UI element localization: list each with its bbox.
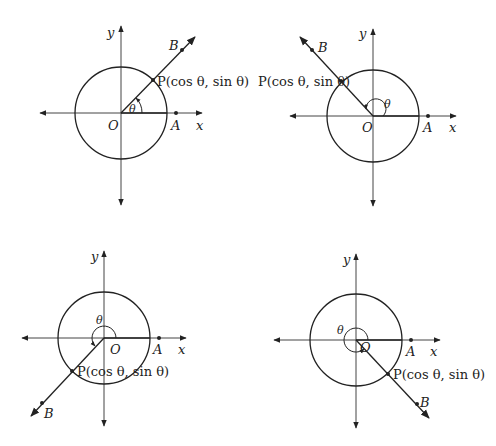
- origin-label: O: [110, 342, 121, 357]
- y-label: y: [106, 25, 115, 40]
- diagram-quadrant-2: y x O A B P(cos θ, sin θ) θ: [258, 26, 457, 206]
- point-a: [174, 111, 178, 115]
- point-a-label: A: [152, 342, 162, 357]
- angle-label: θ: [129, 103, 136, 116]
- point-p-label: P(cos θ, sin θ): [77, 364, 169, 379]
- origin-label: O: [362, 120, 373, 135]
- point-a-label: A: [422, 120, 432, 135]
- x-label: x: [178, 342, 186, 357]
- x-label: x: [430, 344, 438, 359]
- point-b: [310, 48, 314, 52]
- angle-label: θ: [384, 98, 391, 111]
- diagram-quadrant-3: y x O A B P(cos θ, sin θ) θ: [22, 249, 186, 426]
- x-label: x: [196, 118, 204, 133]
- point-p: [70, 369, 74, 373]
- angle-label: θ: [337, 324, 344, 337]
- y-label: y: [342, 252, 351, 267]
- unit-circle-diagrams: y x O A B P(cos θ, sin θ) θ y x O A B P(…: [0, 0, 496, 446]
- point-p: [386, 372, 390, 376]
- point-p-label: P(cos θ, sin θ): [393, 367, 485, 382]
- point-b-label: B: [317, 40, 328, 55]
- y-label: y: [90, 249, 99, 264]
- point-b: [40, 401, 44, 405]
- x-label: x: [449, 120, 457, 135]
- point-a-label: A: [170, 118, 180, 133]
- point-p-label: P(cos θ, sin θ): [258, 74, 350, 89]
- angle-arc: [136, 98, 142, 113]
- point-b-label: B: [168, 38, 179, 53]
- angle-label: θ: [96, 314, 103, 327]
- point-a: [426, 114, 430, 118]
- point-a-label: A: [405, 344, 415, 359]
- point-p-label: P(cos θ, sin θ): [157, 74, 249, 89]
- origin-label: O: [108, 118, 119, 133]
- point-a: [157, 336, 161, 340]
- point-b: [180, 48, 184, 52]
- diagram-quadrant-4: y x O A B P(cos θ, sin θ) θ: [274, 252, 485, 428]
- point-b: [415, 402, 419, 406]
- point-p: [151, 78, 155, 82]
- point-a: [409, 338, 413, 342]
- point-b-label: B: [419, 395, 430, 410]
- y-label: y: [358, 26, 367, 41]
- origin-label: O: [360, 340, 371, 355]
- angle-arc: [366, 99, 386, 116]
- point-b-label: B: [43, 406, 54, 421]
- diagram-quadrant-1: y x O A B P(cos θ, sin θ) θ: [40, 25, 249, 205]
